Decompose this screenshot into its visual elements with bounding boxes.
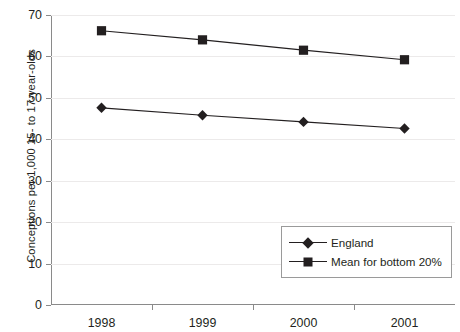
data-point-marker — [399, 123, 409, 133]
legend-item-mean-bottom-20: Mean for bottom 20% — [289, 252, 442, 271]
data-point-marker — [96, 103, 106, 113]
y-axis-tick-label: 70 — [28, 8, 42, 22]
x-axis-tick-label: 1999 — [189, 316, 217, 330]
x-axis-tick — [253, 305, 254, 310]
x-axis-tick-label: 2000 — [290, 316, 318, 330]
y-axis-tick-label: 30 — [28, 174, 42, 188]
data-point-marker — [97, 26, 106, 35]
legend-label-england: England — [327, 236, 374, 249]
y-axis-tick — [46, 305, 51, 306]
data-point-marker — [298, 117, 308, 127]
series-line-diamond — [102, 108, 405, 129]
x-axis-tick-label: 1998 — [88, 316, 116, 330]
data-point-marker — [198, 35, 207, 44]
y-axis-tick-label: 40 — [28, 132, 42, 146]
data-point-marker — [400, 55, 409, 64]
data-point-marker — [197, 110, 207, 120]
data-point-marker — [299, 46, 308, 55]
y-axis-tick-label: 60 — [28, 49, 42, 63]
conceptions-line-chart: Conceptions per 1,000 15- to 17-year-old… — [0, 0, 460, 332]
legend-key-diamond-icon — [289, 236, 327, 250]
y-axis-tick-label: 10 — [28, 257, 42, 271]
y-axis-tick-label: 50 — [28, 91, 42, 105]
legend-label-mean-bottom-20: Mean for bottom 20% — [327, 255, 442, 268]
x-axis-tick-label: 2001 — [391, 316, 419, 330]
x-axis-tick — [354, 305, 355, 310]
chart-legend: England Mean for bottom 20% — [281, 226, 452, 278]
y-axis-tick-label: 0 — [35, 298, 42, 312]
legend-item-england: England — [289, 233, 442, 252]
x-axis-tick — [152, 305, 153, 310]
legend-key-square-icon — [289, 255, 327, 269]
series-line-square — [102, 31, 405, 60]
y-axis-tick-label: 20 — [28, 215, 42, 229]
